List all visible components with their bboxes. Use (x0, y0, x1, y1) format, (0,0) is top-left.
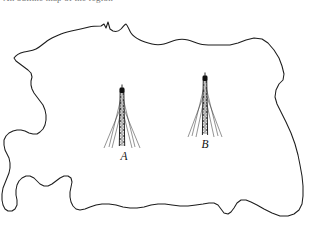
mast-a-label: A (119, 150, 128, 162)
mast-a-guy-wire-far-right (124, 100, 136, 147)
map-figure: An outline map of the region (0, 0, 312, 225)
map-canvas: A (0, 0, 312, 225)
mast-a-guy-wire-left-outer (104, 108, 121, 148)
mast-b-guy-wire-right-outer (207, 96, 223, 137)
mast-b-antenna-head (203, 76, 208, 82)
mast-a-edge-left (119, 89, 120, 146)
mast-a-antenna-head (120, 88, 125, 94)
mast-a-guy-wire-right-outer (124, 108, 141, 148)
transmitter-mast-a: A (104, 85, 140, 163)
region-coastline-outline (2, 22, 303, 216)
transmitter-mast-b: B (188, 73, 222, 151)
mast-b-label: B (201, 138, 208, 150)
mast-a-guy-wire-far-left (109, 100, 121, 147)
mast-b-guy-wire-left-outer (188, 96, 204, 137)
